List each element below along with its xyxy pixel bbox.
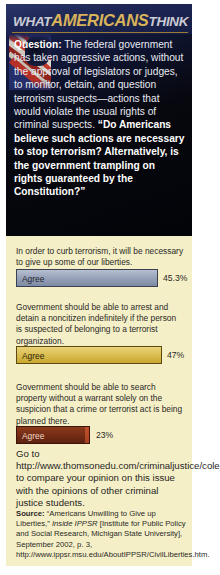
question-label: Question: — [14, 39, 62, 50]
goto-url-text: Go to http://www.thomsonedu.com/criminal… — [16, 448, 188, 509]
source-publication: Inside IPPSR — [52, 519, 98, 528]
what-americans-think-figure: WHATAMERICANSTHINK Question: The federal… — [0, 0, 202, 575]
title-word-think: THINK — [149, 14, 189, 29]
banner-bar: WHATAMERICANSTHINK — [6, 4, 192, 34]
statement-1: In order to curb terrorism, it will be n… — [16, 246, 184, 268]
statement-3: Government should be able to search prop… — [16, 382, 184, 427]
question-panel: WHATAMERICANSTHINK Question: The federal… — [6, 4, 192, 236]
results-panel: In order to curb terrorism, it will be n… — [6, 236, 192, 566]
bar-2: Agree — [16, 346, 162, 364]
bar-1: Agree — [16, 269, 158, 287]
bar-2-label: Agree — [22, 351, 44, 361]
statement-2: Government should be able to arrest and … — [16, 302, 184, 347]
page-title: WHATAMERICANSTHINK — [13, 12, 188, 30]
bar-3-value: 23% — [96, 430, 113, 440]
title-word-americans: AMERICANS — [51, 11, 148, 29]
question-emphasis: “Do Americans believe such actions are n… — [14, 119, 184, 197]
title-word-what: WHAT — [13, 14, 51, 29]
bar-1-label: Agree — [22, 274, 44, 284]
source-note: Source: “Americans Unwilling to Give up … — [16, 509, 188, 560]
source-label: Source: — [16, 509, 45, 518]
bar-2-value: 47% — [167, 350, 184, 360]
bar-3: Agree — [16, 426, 90, 444]
bar-3-label: Agree — [22, 431, 44, 441]
question-text: Question: The federal government has tak… — [14, 38, 186, 199]
question-body: The federal government has taken aggress… — [14, 39, 183, 130]
bar-1-value: 45.3% — [163, 273, 187, 283]
banner-divider — [12, 32, 188, 33]
